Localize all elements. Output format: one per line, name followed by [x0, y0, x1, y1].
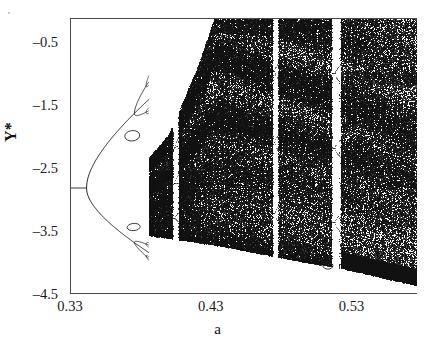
- y-tick-minor: [70, 75, 71, 76]
- bifurcation-scatter-canvas: [71, 19, 417, 294]
- x-tick: [71, 293, 72, 294]
- y-tick: [70, 106, 71, 107]
- y-tick: [70, 169, 71, 170]
- y-tick-label: –3.5: [33, 224, 58, 239]
- y-tick-minor: [70, 138, 71, 139]
- scan-speck: [8, 12, 10, 14]
- y-tick-label: –2.5: [33, 161, 58, 176]
- y-tick-minor: [70, 264, 71, 265]
- y-tick: [70, 232, 71, 233]
- x-axis-title: a: [0, 321, 435, 338]
- x-tick-minor: [282, 293, 283, 294]
- x-tick: [353, 293, 354, 294]
- x-tick-label: 0.53: [339, 299, 364, 314]
- y-tick-label: –1.5: [33, 98, 58, 113]
- x-tick-label: 0.33: [57, 299, 82, 314]
- x-tick: [212, 293, 213, 294]
- figure-root: –0.5–1.5–2.5–3.5–4.5 0.330.430.53 Y* a: [0, 0, 435, 343]
- x-tick-minor: [141, 293, 142, 294]
- y-axis-ticklabels: –0.5–1.5–2.5–3.5–4.5: [0, 18, 66, 294]
- y-tick-label: –0.5: [33, 35, 58, 50]
- plot-area: [70, 18, 417, 294]
- y-tick: [70, 43, 71, 44]
- x-axis-ticklabels: 0.330.430.53: [0, 299, 435, 319]
- y-tick-minor: [70, 201, 71, 202]
- y-axis-title: Y*: [2, 122, 20, 142]
- x-tick-label: 0.43: [198, 299, 223, 314]
